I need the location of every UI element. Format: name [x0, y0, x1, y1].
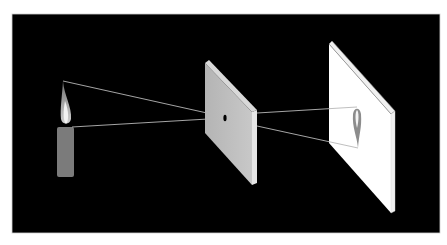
board-side-edge — [252, 110, 257, 185]
diagram-canvas — [0, 0, 447, 245]
pinhole — [223, 115, 226, 121]
pinhole-camera-diagram — [0, 0, 447, 245]
candle-body — [57, 127, 74, 177]
screen-side-edge — [391, 111, 395, 213]
